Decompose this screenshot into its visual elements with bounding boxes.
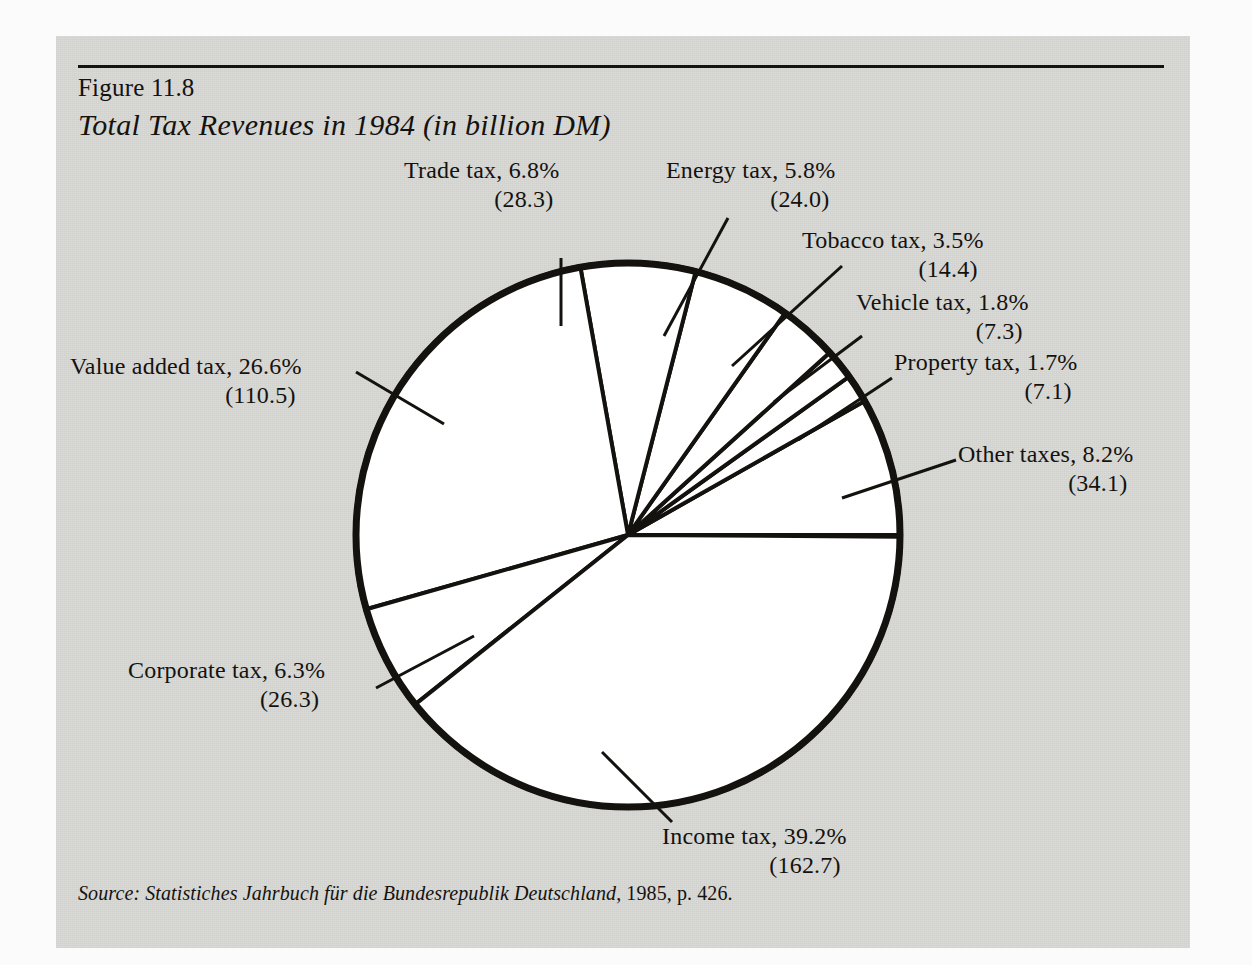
callout-other-taxes-value: (34.1) [958, 469, 1133, 498]
callout-income-tax-label: Income tax, 39.2% [662, 823, 847, 849]
pie-chart: Trade tax, 6.8% (28.3) Energy tax, 5.8% … [56, 36, 1190, 948]
callout-income-tax: Income tax, 39.2% (162.7) [662, 822, 847, 881]
callout-tobacco-tax: Tobacco tax, 3.5% (14.4) [802, 226, 984, 285]
source-note-citation: Source: Statistiches Jahrbuch für die Bu… [78, 882, 616, 904]
callout-tobacco-tax-value: (14.4) [802, 255, 984, 284]
callout-vehicle-tax: Vehicle tax, 1.8% (7.3) [856, 288, 1029, 347]
callout-vehicle-tax-value: (7.3) [856, 317, 1029, 346]
callout-trade-tax-label: Trade tax, 6.8% [404, 157, 559, 183]
callout-trade-tax: Trade tax, 6.8% (28.3) [404, 156, 559, 215]
callout-value-added-tax-value: (110.5) [70, 381, 302, 410]
callout-corporate-tax: Corporate tax, 6.3% (26.3) [128, 656, 325, 715]
callout-trade-tax-value: (28.3) [404, 185, 559, 214]
callout-property-tax-label: Property tax, 1.7% [894, 349, 1078, 375]
callout-vehicle-tax-label: Vehicle tax, 1.8% [856, 289, 1029, 315]
callout-energy-tax-label: Energy tax, 5.8% [666, 157, 835, 183]
callout-corporate-tax-value: (26.3) [128, 685, 325, 714]
callout-property-tax-value: (7.1) [894, 377, 1078, 406]
callout-energy-tax-value: (24.0) [666, 185, 835, 214]
callout-value-added-tax: Value added tax, 26.6% (110.5) [70, 352, 302, 411]
pie-slice-group [356, 263, 900, 807]
source-note: Source: Statistiches Jahrbuch für die Bu… [78, 882, 733, 905]
figure-panel: Figure 11.8 Total Tax Revenues in 1984 (… [56, 36, 1190, 948]
callout-energy-tax: Energy tax, 5.8% (24.0) [666, 156, 835, 215]
callout-other-taxes-label: Other taxes, 8.2% [958, 441, 1133, 467]
source-note-page: , 1985, p. 426. [616, 882, 733, 904]
callout-property-tax: Property tax, 1.7% (7.1) [894, 348, 1078, 407]
callout-corporate-tax-label: Corporate tax, 6.3% [128, 657, 325, 683]
figure-content: Figure 11.8 Total Tax Revenues in 1984 (… [56, 36, 1190, 948]
callout-tobacco-tax-label: Tobacco tax, 3.5% [802, 227, 984, 253]
callout-value-added-tax-label: Value added tax, 26.6% [70, 353, 302, 379]
callout-income-tax-value: (162.7) [662, 851, 847, 880]
callout-other-taxes: Other taxes, 8.2% (34.1) [958, 440, 1133, 499]
